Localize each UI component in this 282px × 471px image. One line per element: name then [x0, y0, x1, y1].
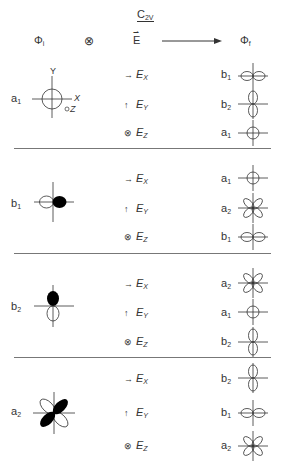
field-component-x: →EX [124, 68, 148, 81]
final-symmetry-label: b1 [221, 406, 231, 419]
py-orbital-icon [236, 89, 270, 119]
field-component-z: ⊗EZ [124, 335, 148, 348]
dxy-orbital-icon [236, 193, 270, 223]
field-component-y: ↑EY [124, 306, 148, 319]
block-divider [14, 148, 271, 149]
arrow-up-icon: ↑ [124, 308, 136, 318]
final-symmetry-label: b2 [221, 98, 231, 111]
field-component-x: →EX [124, 277, 148, 290]
circle-cross-icon: ⊗ [124, 337, 136, 347]
s-orbital-with-axes-icon [32, 80, 76, 124]
initial-symmetry-label: a2 [11, 405, 21, 418]
field-component-x: →EX [124, 172, 148, 185]
field-component-z: ⊗EZ [124, 230, 148, 243]
arrow-up-icon: ↑ [124, 204, 136, 214]
final-symmetry-label: a1 [221, 126, 231, 139]
initial-subscript: i [43, 40, 45, 47]
phi-symbol: Φ [240, 34, 249, 46]
px-orbital-icon [236, 400, 270, 426]
px-orbital-icon [236, 224, 270, 250]
py-orbital-icon [236, 363, 270, 393]
vector-arrow-icon: ⇀ [133, 29, 139, 37]
direct-product-symbol: ⊗ [84, 34, 94, 48]
final-subscript: f [249, 40, 251, 47]
final-symmetry-label: b2 [221, 372, 231, 385]
point-group-label: C2V [137, 8, 154, 21]
arrow-up-icon: ↑ [124, 408, 136, 418]
s-orbital-icon [236, 165, 270, 191]
final-symmetry-label: a2 [221, 439, 231, 452]
dxy-orbital-shaded-icon [31, 390, 77, 436]
initial-symmetry-label: b2 [11, 300, 21, 313]
arrow-right-icon: → [124, 374, 136, 384]
field-component-y: ↑EY [124, 98, 148, 111]
block-divider [14, 253, 271, 254]
x-axis-label: X [74, 93, 80, 103]
initial-symmetry-label: a1 [11, 92, 21, 105]
field-component-y: ↑EY [124, 406, 148, 419]
field-component-z: ⊗EZ [124, 439, 148, 452]
dxy-orbital-icon [236, 268, 270, 298]
field-component-y: ↑EY [124, 202, 148, 215]
z-axis-label: Z [70, 104, 76, 114]
final-symmetry-label: b2 [221, 335, 231, 348]
s-orbital-icon [236, 120, 270, 146]
px-orbital-icon [236, 63, 270, 89]
final-symmetry-label: a2 [221, 277, 231, 290]
arrow-up-icon: ↑ [124, 100, 136, 110]
final-symmetry-label: a1 [221, 306, 231, 319]
circle-cross-icon: ⊗ [124, 232, 136, 242]
circle-cross-icon: ⊗ [124, 128, 136, 138]
group-letter: C [137, 8, 145, 20]
initial-state-header: Φi [34, 34, 44, 47]
field-component-z: ⊗EZ [124, 126, 148, 139]
final-symmetry-label: a1 [221, 172, 231, 185]
y-axis-label: Y [50, 66, 56, 76]
phi-symbol: Φ [34, 34, 43, 46]
py-orbital-shaded-icon [32, 284, 76, 328]
field-component-x: →EX [124, 372, 148, 385]
maps-to-arrow-icon [162, 36, 222, 46]
dxy-orbital-icon [236, 431, 270, 461]
s-orbital-icon [236, 299, 270, 325]
final-symmetry-label: b1 [221, 230, 231, 243]
px-orbital-shaded-icon [32, 180, 76, 224]
final-symmetry-label: b1 [221, 68, 231, 81]
final-state-header: Φf [240, 34, 251, 47]
field-vector-header: ⇀ E [133, 34, 140, 46]
arrow-right-icon: → [124, 174, 136, 184]
arrow-right-icon: → [124, 279, 136, 289]
initial-symmetry-label: b1 [11, 197, 21, 210]
group-subscript: 2V [145, 14, 154, 21]
circle-cross-icon: ⊗ [124, 441, 136, 451]
py-orbital-icon [236, 327, 270, 357]
arrow-right-icon: → [124, 70, 136, 80]
final-symmetry-label: a2 [221, 202, 231, 215]
block-divider [14, 357, 271, 358]
